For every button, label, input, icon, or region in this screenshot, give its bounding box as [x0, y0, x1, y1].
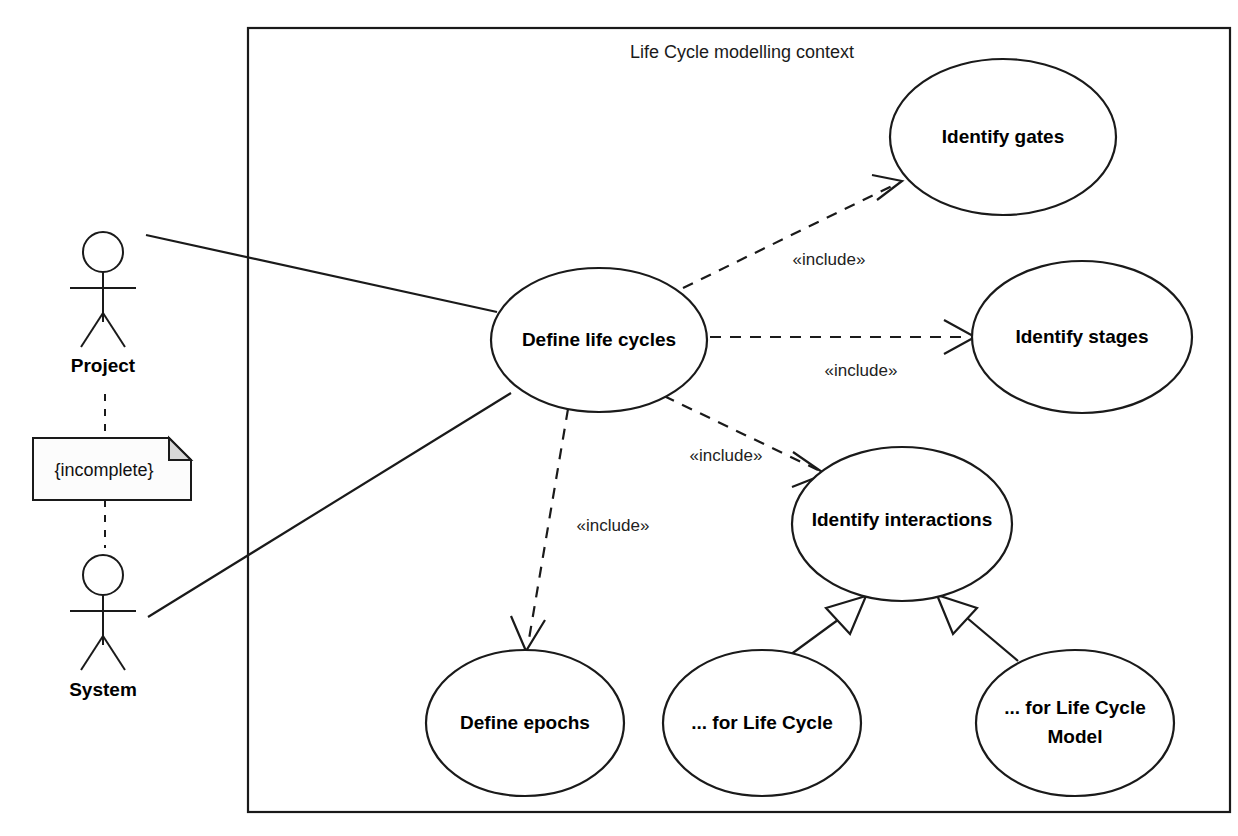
generalization-for-life-cycle-model[interactable]: [937, 595, 1018, 661]
uml-use-case-diagram: Life Cycle modelling context Project Sys…: [0, 0, 1238, 836]
include-epochs-label: «include»: [577, 516, 650, 535]
include-epochs-line: [528, 409, 568, 645]
use-case-identify-interactions-label: Identify interactions: [812, 509, 993, 530]
include-stages-label: «include»: [825, 361, 898, 380]
include-epochs-relationship[interactable]: «include»: [511, 409, 649, 651]
include-stages-relationship[interactable]: «include»: [710, 320, 975, 380]
note-fold-corner-icon: [169, 438, 191, 460]
incomplete-note[interactable]: {incomplete}: [33, 438, 191, 500]
generalization-for-life-cycle-arrowhead-icon: [826, 596, 866, 634]
include-gates-line: [683, 184, 896, 288]
include-gates-label: «include»: [793, 250, 866, 269]
include-epochs-arrowhead-icon: [511, 616, 545, 651]
use-case-for-life-cycle-label: ... for Life Cycle: [691, 712, 832, 733]
actor-project-leg-right-icon: [103, 313, 125, 347]
use-case-define-epochs-label: Define epochs: [460, 712, 590, 733]
use-case-for-life-cycle-model-label-line1: ... for Life Cycle: [1004, 697, 1145, 718]
generalization-for-life-cycle-model-line: [960, 612, 1018, 661]
association-system-to-define-life-cycles[interactable]: [148, 393, 511, 617]
actor-project[interactable]: Project: [70, 232, 136, 376]
use-case-define-epochs[interactable]: Define epochs: [426, 650, 624, 796]
use-case-define-life-cycles-label: Define life cycles: [522, 329, 676, 350]
generalization-for-life-cycle[interactable]: [790, 596, 866, 655]
use-case-identify-stages[interactable]: Identify stages: [972, 261, 1192, 413]
actor-system[interactable]: System: [69, 555, 137, 700]
actor-system-label: System: [69, 679, 137, 700]
generalization-for-life-cycle-model-arrowhead-icon: [937, 595, 977, 634]
include-gates-relationship[interactable]: «include»: [683, 175, 902, 288]
include-interactions-label: «include»: [690, 446, 763, 465]
include-interactions-relationship[interactable]: «include»: [664, 396, 825, 487]
use-case-define-life-cycles[interactable]: Define life cycles: [491, 268, 707, 412]
use-case-for-life-cycle[interactable]: ... for Life Cycle: [663, 650, 861, 796]
use-case-for-life-cycle-model[interactable]: ... for Life Cycle Model: [976, 650, 1174, 796]
actor-system-leg-right-icon: [103, 636, 125, 670]
use-case-for-life-cycle-model-ellipse: [976, 650, 1174, 796]
diagram-canvas: Life Cycle modelling context Project Sys…: [0, 0, 1238, 836]
actor-project-leg-left-icon: [81, 313, 103, 347]
use-case-identify-gates[interactable]: Identify gates: [890, 59, 1116, 215]
use-case-for-life-cycle-model-label-line2: Model: [1048, 726, 1103, 747]
association-project-to-define-life-cycles[interactable]: [146, 235, 497, 312]
actor-system-head-icon: [83, 555, 123, 595]
use-case-identify-interactions[interactable]: Identify interactions: [792, 447, 1012, 601]
actor-project-label: Project: [71, 355, 136, 376]
use-case-identify-gates-label: Identify gates: [942, 126, 1064, 147]
actor-system-leg-left-icon: [81, 636, 103, 670]
use-case-identify-stages-label: Identify stages: [1015, 326, 1148, 347]
system-boundary-title: Life Cycle modelling context: [630, 42, 854, 62]
actor-project-head-icon: [83, 232, 123, 272]
note-label: {incomplete}: [54, 460, 153, 480]
